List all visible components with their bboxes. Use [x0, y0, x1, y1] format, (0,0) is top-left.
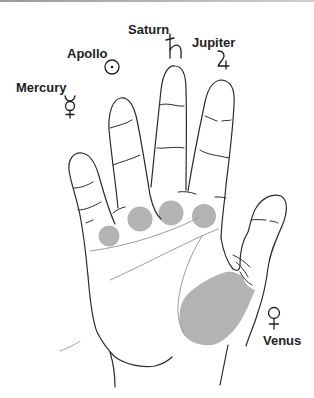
- mount-saturn-circle: [159, 201, 184, 226]
- saturn-symbol-icon: [166, 34, 181, 58]
- jupiter-symbol-icon: [218, 51, 229, 69]
- middle-finger-outline: [151, 66, 186, 190]
- ring-finger-crease-1: [110, 120, 132, 128]
- mount-apollo-circle: [128, 207, 153, 232]
- label-jupiter: Jupiter: [192, 36, 235, 49]
- venus-symbol-icon: [269, 308, 280, 330]
- mount-mercury-circle: [99, 226, 120, 247]
- label-apollo: Apollo: [67, 47, 107, 60]
- little-finger-crease-2: [78, 202, 101, 210]
- label-saturn: Saturn: [128, 23, 169, 36]
- finger-base-crease-ring: [113, 207, 125, 213]
- thumb-crease-2: [233, 255, 250, 267]
- mercury-symbol-icon: [65, 96, 75, 118]
- mount-venus-area: [179, 272, 255, 345]
- sun-symbol-icon: [105, 60, 119, 74]
- thumb-crease-1: [251, 220, 278, 223]
- middle-finger-crease-1: [160, 104, 184, 106]
- little-finger-crease-1: [74, 182, 93, 188]
- wrist-right-line: [220, 345, 228, 385]
- label-mercury: Mercury: [16, 81, 67, 94]
- mount-jupiter-circle: [192, 204, 216, 228]
- wrist-left-line: [110, 352, 115, 387]
- ring-finger-crease-2: [113, 155, 140, 165]
- label-venus: Venus: [263, 334, 301, 347]
- lower-palm-line: [60, 341, 80, 351]
- ring-finger-outline: [109, 98, 161, 219]
- palm-left-edge: [88, 276, 172, 367]
- palm-left-crease: [86, 220, 93, 223]
- index-finger-crease-1: [205, 116, 231, 121]
- little-finger-outline: [69, 153, 115, 276]
- index-finger-crease-2: [200, 150, 229, 158]
- finger-base-crease-index: [215, 197, 226, 198]
- middle-finger-crease-2: [157, 147, 184, 148]
- finger-base-crease-middle: [178, 192, 196, 194]
